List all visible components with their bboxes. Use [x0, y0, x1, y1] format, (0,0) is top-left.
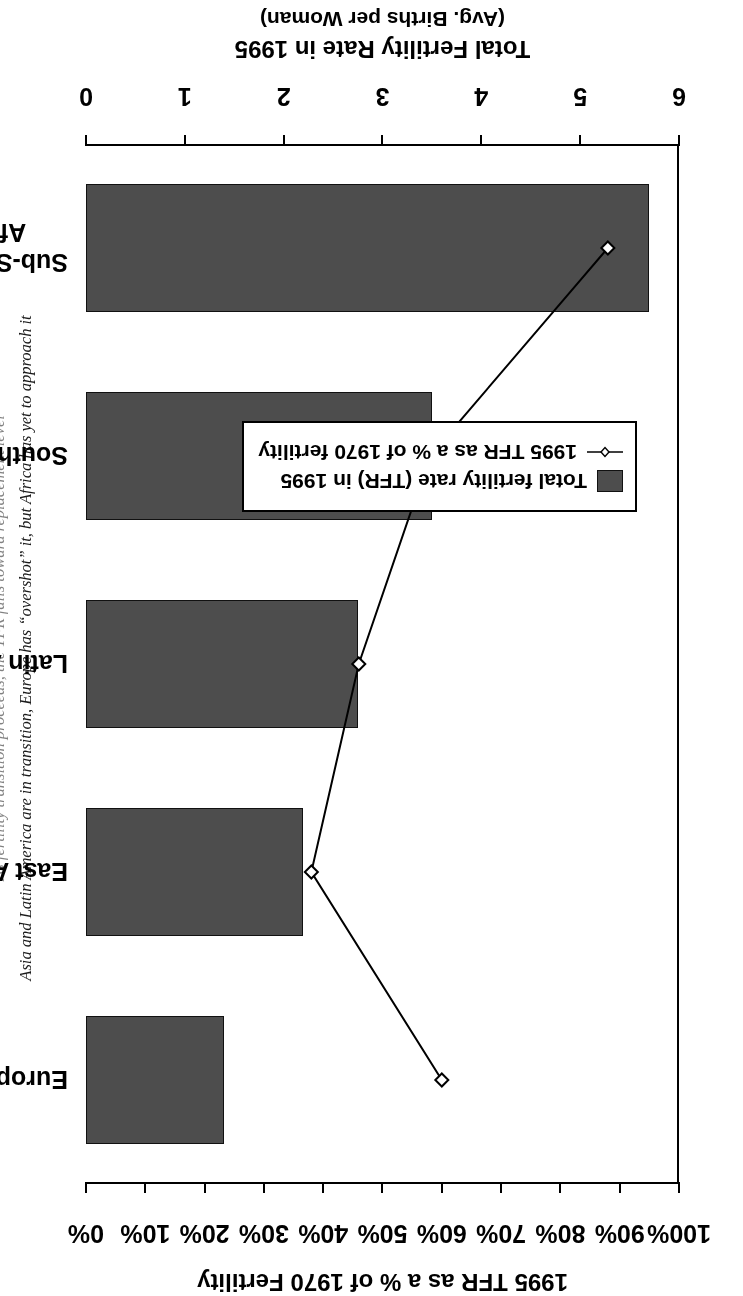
- tfr-tick-label: 5: [573, 82, 587, 111]
- tfr-tick-label: 3: [376, 82, 390, 111]
- percent-tick-label: 10%: [120, 1219, 170, 1248]
- plot-area: 1995 TFR as a % of 1970 Fertility Total …: [86, 144, 679, 1184]
- percent-tick-label: 90%: [595, 1219, 645, 1248]
- percent-axis-title: 1995 TFR as a % of 1970 Fertility: [86, 1268, 679, 1296]
- tfr-tick-label: 6: [672, 82, 686, 111]
- caption-main-line: Asia and Latin America are in transition…: [13, 0, 39, 1296]
- percent-tick-label: 30%: [239, 1219, 289, 1248]
- chart-legend: Total fertility rate (TFR) in 1995 1995 …: [242, 421, 637, 512]
- rotated-figure-wrapper: As fertility transition proceeds, the TF…: [0, 0, 743, 1296]
- category-label: South Asia: [0, 441, 68, 471]
- open-diamond-marker: [305, 866, 318, 879]
- tfr-axis-title-main: Total Fertility Rate in 1995: [235, 36, 531, 63]
- caption-clipped-line: As fertility transition proceeds, the TF…: [0, 0, 13, 1296]
- tfr-tick-label: 0: [79, 82, 93, 111]
- percent-tick-label: 40%: [298, 1219, 348, 1248]
- percent-tick-label: 0%: [68, 1219, 104, 1248]
- percent-tick-label: 50%: [357, 1219, 407, 1248]
- line-with-open-diamond-icon: [587, 441, 623, 463]
- percent-line-series: [86, 144, 679, 1184]
- percent-tick-label: 80%: [535, 1219, 585, 1248]
- percent-tick-label: 70%: [476, 1219, 526, 1248]
- category-label: Sub-SaharanAfrica: [0, 218, 68, 278]
- legend-item-bar: Total fertility rate (TFR) in 1995: [258, 469, 623, 493]
- legend-label-line: 1995 TFR as a % of 1970 fertility: [258, 440, 577, 464]
- chart-figure: As fertility transition proceeds, the TF…: [0, 0, 743, 1296]
- tfr-tick-label: 2: [277, 82, 291, 111]
- category-label: Latin America: [0, 649, 68, 679]
- percent-tick-label: 100%: [647, 1219, 711, 1248]
- tfr-axis-title-sub: (Avg. Births per Woman): [86, 4, 679, 34]
- figure-caption: As fertility transition proceeds, the TF…: [0, 0, 60, 1296]
- tfr-tick-label: 1: [178, 82, 192, 111]
- category-label: East Asia: [0, 857, 68, 887]
- percent-tick-label: 20%: [180, 1219, 230, 1248]
- open-diamond-marker: [352, 658, 365, 671]
- legend-item-line: 1995 TFR as a % of 1970 fertility: [258, 440, 623, 464]
- category-label: European Union: [0, 1065, 68, 1095]
- tfr-axis-title: Total Fertility Rate in 1995 (Avg. Birth…: [86, 4, 679, 64]
- percent-tick-label: 60%: [417, 1219, 467, 1248]
- tfr-tick-label: 4: [474, 82, 488, 111]
- open-diamond-marker: [435, 1074, 448, 1087]
- legend-label-bar: Total fertility rate (TFR) in 1995: [281, 469, 588, 493]
- filled-square-swatch-icon: [597, 470, 623, 492]
